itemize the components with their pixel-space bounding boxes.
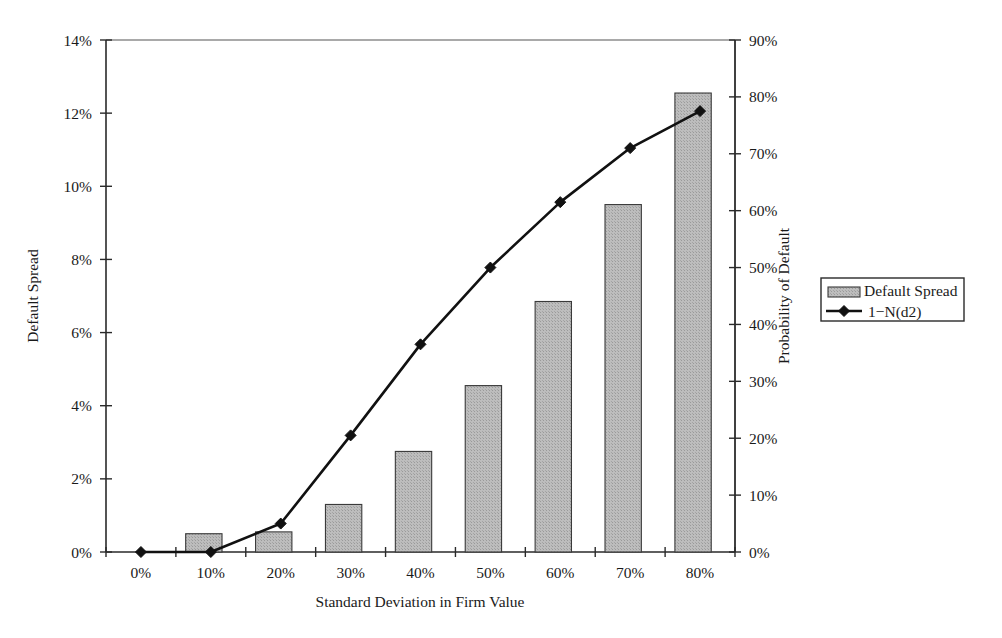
y-tick-label-right: 50% bbox=[749, 259, 778, 276]
y-tick-label-left: 0% bbox=[71, 544, 92, 561]
y-axis-left-title: Default Spread bbox=[24, 249, 41, 343]
y-tick-label-left: 8% bbox=[71, 251, 92, 268]
y-tick-label-right: 40% bbox=[749, 316, 778, 333]
x-tick-label: 50% bbox=[476, 564, 505, 581]
bar bbox=[675, 93, 711, 552]
bar bbox=[325, 504, 361, 552]
y-tick-label-left: 6% bbox=[71, 324, 92, 341]
x-tick-label: 10% bbox=[197, 564, 226, 581]
data-point-marker bbox=[135, 547, 146, 558]
y-tick-label-left: 10% bbox=[64, 178, 93, 195]
x-tick-label: 40% bbox=[406, 564, 435, 581]
x-tick-label: 30% bbox=[336, 564, 365, 581]
bar bbox=[605, 205, 641, 552]
chart-svg: 0%2%4%6%8%10%12%14% 0%10%20%30%40%50%60%… bbox=[0, 0, 1002, 638]
x-tick-label: 60% bbox=[546, 564, 575, 581]
legend-label-1-n-d2: 1−N(d2) bbox=[868, 303, 922, 321]
y-axis-left-ticks: 0%2%4%6%8%10%12%14% bbox=[64, 32, 112, 561]
x-tick-label: 20% bbox=[267, 564, 296, 581]
x-tick-label: 80% bbox=[686, 564, 715, 581]
y-tick-label-left: 12% bbox=[64, 105, 93, 122]
legend-label-default-spread: Default Spread bbox=[864, 282, 958, 299]
y-axis-right-ticks: 0%10%20%30%40%50%60%70%80%90% bbox=[729, 32, 778, 561]
legend: Default Spread 1−N(d2) bbox=[821, 278, 964, 321]
bar-series bbox=[186, 93, 712, 552]
x-tick-label: 0% bbox=[131, 564, 152, 581]
legend-swatch-default-spread bbox=[828, 287, 860, 297]
y-tick-label-right: 30% bbox=[749, 373, 778, 390]
y-tick-label-left: 4% bbox=[71, 397, 92, 414]
bar bbox=[256, 532, 292, 552]
chart-container: 0%2%4%6%8%10%12%14% 0%10%20%30%40%50%60%… bbox=[0, 0, 1002, 638]
bar bbox=[535, 301, 571, 552]
y-tick-label-left: 14% bbox=[64, 32, 93, 49]
y-tick-label-right: 10% bbox=[749, 487, 778, 504]
y-tick-label-right: 20% bbox=[749, 430, 778, 447]
y-tick-label-right: 90% bbox=[749, 32, 778, 49]
y-tick-label-left: 2% bbox=[71, 470, 92, 487]
bar bbox=[465, 386, 501, 552]
x-tick-label: 70% bbox=[616, 564, 645, 581]
y-tick-label-right: 80% bbox=[749, 88, 778, 105]
y-tick-label-right: 60% bbox=[749, 202, 778, 219]
y-tick-label-right: 0% bbox=[749, 544, 770, 561]
bar bbox=[395, 451, 431, 552]
y-tick-label-right: 70% bbox=[749, 145, 778, 162]
y-axis-right-title: Probability of Default bbox=[775, 227, 792, 364]
x-axis-title: Standard Deviation in Firm Value bbox=[316, 593, 525, 610]
